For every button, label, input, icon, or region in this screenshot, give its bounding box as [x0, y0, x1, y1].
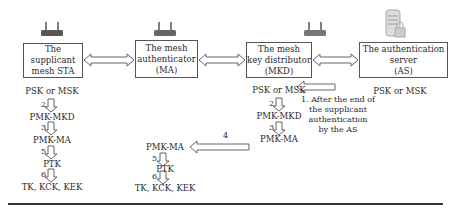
step-number: 6: [152, 172, 157, 181]
key-ptk: PTK: [135, 164, 195, 174]
step-number: 3: [269, 123, 274, 132]
note-line: authentication: [298, 115, 378, 125]
key-pmk-ma: PMK-MA: [249, 134, 309, 144]
key-pmk-ma: PMK-MA: [135, 142, 195, 152]
note-line: the supplicant: [298, 105, 378, 115]
key-psk-msk: PSK or MSK: [22, 86, 82, 96]
key-tk-kck-kek: TK, KCK, KEK: [17, 182, 87, 192]
step-number: 2: [41, 100, 46, 109]
key-hierarchy-diagram: The supplicant mesh STA The mesh authent…: [0, 0, 450, 213]
key-psk-msk: PSK or MSK: [249, 85, 309, 95]
step-4-label: 4: [223, 131, 228, 140]
step-number: 2: [269, 99, 274, 108]
note-line: by the AS: [298, 125, 378, 135]
key-tk-kck-kek: TK, KCK, KEK: [128, 183, 202, 193]
double-arrow-icon: [84, 54, 134, 66]
note-line: 1. After the end of: [298, 95, 378, 105]
down-arrow-icon: [273, 98, 285, 111]
step-number: 3: [41, 123, 46, 132]
left-arrow-icon: [190, 141, 249, 153]
down-arrow-icon: [45, 169, 57, 182]
key-pmk-ma: PMK-MA: [22, 135, 82, 145]
down-arrow-icon: [45, 122, 57, 135]
step-number: 5: [41, 147, 46, 156]
bottom-rule: [8, 203, 443, 205]
step-number: 6: [41, 170, 46, 179]
key-ptk: PTK: [22, 159, 82, 169]
step-1-note: 1. After the end of the supplicant authe…: [298, 95, 378, 135]
key-pmk-mkd: PMK-MKD: [22, 112, 82, 122]
down-arrow-icon: [45, 146, 57, 159]
double-arrow-icon: [313, 54, 358, 66]
down-arrow-icon: [45, 99, 57, 112]
step-number: 5: [152, 154, 157, 163]
double-arrow-icon: [199, 54, 245, 66]
as-key-psk-msk: PSK or MSK: [370, 86, 430, 96]
